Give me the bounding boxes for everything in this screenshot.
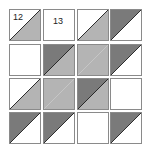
cell-triangles xyxy=(78,79,108,109)
cell-triangles xyxy=(111,45,141,75)
grid-cell-r2-c4 xyxy=(110,44,142,76)
cell-triangles xyxy=(44,45,74,75)
grid-cell-r4-c4 xyxy=(110,112,142,144)
grid-cell-r3-c2 xyxy=(43,78,75,110)
cell-triangles xyxy=(78,113,108,143)
grid-cell-r2-c1 xyxy=(9,44,41,76)
grid-cell-r3-c3 xyxy=(77,78,109,110)
cell-triangles xyxy=(10,79,40,109)
grid-cell-r2-c2 xyxy=(43,44,75,76)
grid-cell-r1-c1: 12 xyxy=(9,9,41,41)
cell-triangles xyxy=(44,113,74,143)
cell-triangles xyxy=(10,45,40,75)
cell-triangles xyxy=(111,113,141,143)
quilt-grid: 1213 xyxy=(9,9,142,143)
cell-number-label: 13 xyxy=(53,17,63,26)
grid-cell-r3-c4 xyxy=(110,78,142,110)
cell-triangles xyxy=(78,10,108,40)
grid-cell-r4-c2 xyxy=(43,112,75,144)
cell-triangles xyxy=(111,10,141,40)
cell-triangles xyxy=(44,79,74,109)
grid-cell-r4-c3 xyxy=(77,112,109,144)
grid-cell-r1-c4 xyxy=(110,9,142,41)
grid-cell-r3-c1 xyxy=(9,78,41,110)
cell-number-label: 12 xyxy=(13,13,23,22)
grid-cell-r2-c3 xyxy=(77,44,109,76)
cell-triangles xyxy=(10,113,40,143)
grid-cell-r4-c1 xyxy=(9,112,41,144)
grid-cell-r1-c3 xyxy=(77,9,109,41)
cell-triangles xyxy=(78,45,108,75)
grid-cell-r1-c2: 13 xyxy=(43,9,75,41)
cell-triangles xyxy=(111,79,141,109)
